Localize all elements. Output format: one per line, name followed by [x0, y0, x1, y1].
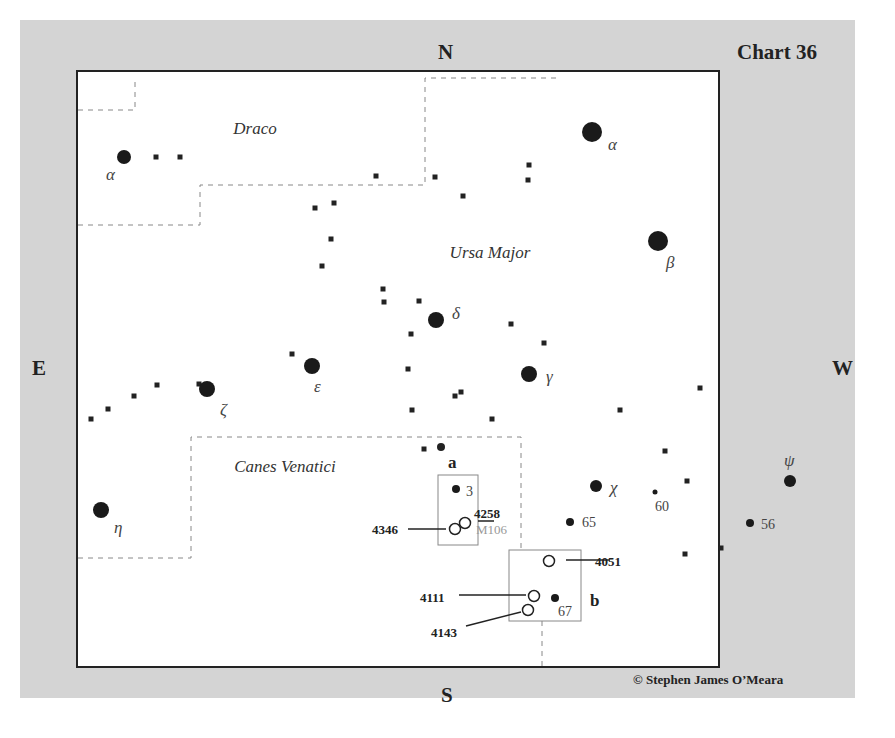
bright-star — [590, 480, 602, 492]
bright-star — [784, 475, 796, 487]
faint-star — [406, 367, 411, 372]
faint-star — [683, 552, 688, 557]
greek-letter-label: ζ — [220, 400, 228, 419]
faint-star — [719, 546, 724, 551]
faint-star — [155, 383, 160, 388]
galaxy-ngc-4051 — [544, 556, 555, 567]
constellation-boundaries — [78, 78, 560, 668]
faint-star — [685, 479, 690, 484]
finder-box-label: a — [448, 453, 457, 472]
numbered-star — [452, 485, 460, 493]
ngc-label: 4051 — [595, 554, 621, 569]
faint-star — [332, 201, 337, 206]
star-number-label: 3 — [466, 484, 473, 499]
greek-letter-label: η — [114, 518, 122, 537]
faint-star — [374, 174, 379, 179]
faint-star — [490, 417, 495, 422]
faint-star — [461, 194, 466, 199]
faint-star — [453, 394, 458, 399]
greek-letter-label: ψ — [784, 451, 795, 470]
numbered-star — [746, 519, 754, 527]
faint-star — [698, 386, 703, 391]
bright-star — [582, 122, 602, 142]
numbered-star — [551, 594, 559, 602]
faint-star — [527, 163, 532, 168]
greek-letter-label: α — [106, 165, 116, 184]
star-number-label: 56 — [761, 517, 775, 532]
faint-star — [89, 417, 94, 422]
faint-star — [329, 237, 334, 242]
greek-letter-label: α — [608, 135, 618, 154]
galaxy-ngc-4258 — [460, 518, 471, 529]
bright-star — [93, 502, 109, 518]
faint-star — [459, 390, 464, 395]
faint-star — [382, 300, 387, 305]
galaxy-ngc-4111 — [529, 591, 540, 602]
ngc-label: 4111 — [420, 590, 445, 605]
finder-box-label: b — [590, 591, 599, 610]
greek-letter-label: χ — [608, 478, 618, 497]
faint-star — [542, 341, 547, 346]
greek-letter-label: δ — [452, 304, 461, 323]
constellation-label: Draco — [232, 119, 276, 138]
ngc-label: 4346 — [372, 522, 399, 537]
star — [437, 443, 445, 451]
leader-line — [466, 612, 521, 626]
star-number-label: 60 — [655, 499, 669, 514]
faint-star — [509, 322, 514, 327]
bright-star — [521, 366, 537, 382]
ngc-label: 4143 — [431, 625, 458, 640]
bright-star — [428, 312, 444, 328]
faint-star — [417, 299, 422, 304]
bright-star — [117, 150, 131, 164]
bright-star — [199, 381, 215, 397]
greek-letter-label: β — [665, 253, 675, 272]
constellation-label: Canes Venatici — [234, 457, 336, 476]
faint-star — [526, 178, 531, 183]
faint-star — [409, 332, 414, 337]
faint-star — [154, 155, 159, 160]
faint-star — [106, 407, 111, 412]
messier-label: M106 — [476, 522, 508, 537]
faint-star — [313, 206, 318, 211]
greek-letter-label: γ — [546, 367, 554, 386]
numbered-star — [653, 490, 658, 495]
constellation-label: Ursa Major — [450, 243, 531, 262]
faint-star — [433, 175, 438, 180]
bright-star — [304, 358, 320, 374]
faint-star — [178, 155, 183, 160]
faint-star — [320, 264, 325, 269]
greek-letter-label: ε — [314, 377, 321, 396]
star-map: DracoUrsa MajorCanes Venaticiabααβδγεζηχ… — [0, 0, 895, 738]
faint-star — [290, 352, 295, 357]
numbered-star — [566, 518, 574, 526]
bright-star — [648, 231, 668, 251]
faint-star — [663, 449, 668, 454]
galaxy-ngc-4143 — [523, 605, 534, 616]
galaxy-ngc-4346 — [450, 524, 461, 535]
ngc-label: 4258 — [474, 506, 501, 521]
star-number-label: 67 — [558, 604, 572, 619]
faint-star — [381, 287, 386, 292]
star-number-label: 65 — [582, 515, 596, 530]
faint-star — [132, 394, 137, 399]
faint-star — [618, 408, 623, 413]
faint-star — [422, 447, 427, 452]
faint-star — [410, 408, 415, 413]
